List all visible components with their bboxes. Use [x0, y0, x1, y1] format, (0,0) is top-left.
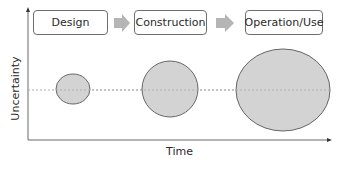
phase-label: Design — [52, 16, 90, 29]
phase-label: Operation/Use — [245, 16, 324, 29]
uncertainty-ellipse-construction — [142, 61, 198, 117]
phase-arrow-icon — [114, 14, 130, 32]
phase-box-construction: Construction — [134, 10, 207, 35]
uncertainty-ellipse-operation — [236, 49, 330, 131]
x-axis-label: Time — [166, 145, 193, 158]
y-axis-arrowhead-icon — [26, 7, 30, 12]
phase-box-operation-use: Operation/Use — [245, 10, 323, 35]
x-axis-arrowhead-icon — [327, 138, 332, 142]
phase-label: Construction — [135, 16, 205, 29]
phase-arrow-icon — [216, 14, 234, 32]
y-axis-label: Uncertainty — [9, 54, 22, 124]
uncertainty-ellipse-design — [56, 74, 90, 104]
phase-box-design: Design — [33, 10, 108, 35]
